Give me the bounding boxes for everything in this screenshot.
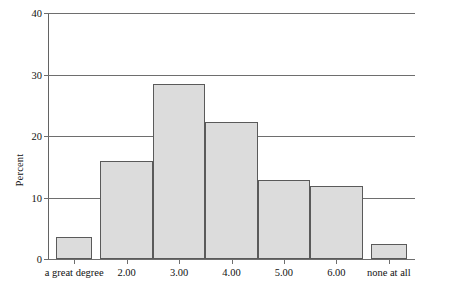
y-tick-mark xyxy=(44,259,48,260)
x-tick-label: a great degree xyxy=(45,267,104,278)
bar xyxy=(153,84,205,259)
y-tick-mark xyxy=(44,13,48,14)
y-axis-title: Percent xyxy=(14,130,28,210)
y-tick-label: 30 xyxy=(32,69,43,80)
x-tick-label: 2.00 xyxy=(117,267,135,278)
bar xyxy=(100,161,152,259)
x-tick-mark xyxy=(336,260,337,264)
gridline xyxy=(48,13,415,14)
x-tick-label: 6.00 xyxy=(327,267,345,278)
plot-area: 010203040 a great degree2.003.004.005.00… xyxy=(48,13,415,259)
y-tick-label: 0 xyxy=(37,254,42,265)
y-tick-mark xyxy=(44,75,48,76)
bar xyxy=(310,186,362,259)
bar xyxy=(56,237,92,259)
x-tick-mark xyxy=(74,260,75,264)
x-tick-label: 4.00 xyxy=(222,267,240,278)
y-tick-label: 10 xyxy=(32,192,43,203)
x-tick-label: 3.00 xyxy=(170,267,188,278)
y-tick-mark xyxy=(44,136,48,137)
x-tick-label: 5.00 xyxy=(275,267,293,278)
bar-chart: Percent 010203040 a great degree2.003.00… xyxy=(0,0,454,294)
bar xyxy=(205,122,257,259)
bar xyxy=(258,180,310,259)
x-tick-mark xyxy=(284,260,285,264)
x-tick-label: none at all xyxy=(367,267,411,278)
x-tick-mark xyxy=(232,260,233,264)
bar xyxy=(371,244,407,259)
y-tick-label: 20 xyxy=(32,131,43,142)
y-tick-label: 40 xyxy=(32,8,43,19)
x-tick-mark xyxy=(127,260,128,264)
x-tick-mark xyxy=(389,260,390,264)
y-tick-mark xyxy=(44,198,48,199)
x-tick-mark xyxy=(179,260,180,264)
gridline xyxy=(48,75,415,76)
